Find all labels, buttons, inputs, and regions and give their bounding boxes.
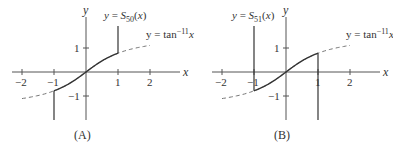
- x-tick-label: −2: [215, 76, 227, 88]
- y-axis-label: y: [282, 3, 289, 17]
- x-axis-label: x: [382, 65, 389, 79]
- panel-label: (A): [74, 128, 91, 142]
- arctan-label: y = tan−11x: [146, 27, 194, 40]
- x-tick-label: 1: [115, 76, 121, 88]
- y-axis-label: y: [82, 3, 89, 17]
- x-tick-label: −2: [15, 76, 27, 88]
- partial-sum-label: y = S51(x): [231, 9, 275, 24]
- panel-a: xy−2−1121−1y = S50(x)y = tan−11x(A): [12, 3, 194, 142]
- x-tick-label: 2: [347, 76, 353, 88]
- partial-sum-label: y = S50(x): [103, 9, 147, 24]
- x-tick-label: −1: [47, 76, 59, 88]
- x-tick-label: −1: [247, 76, 259, 88]
- arctan-label: y = tan−11x: [346, 27, 393, 40]
- y-tick-label: −1: [268, 90, 280, 102]
- y-tick-label: 1: [74, 42, 80, 54]
- y-tick-label: −1: [68, 90, 80, 102]
- panel-b: xy−2−1121−1y = S51(x)y = tan−11x(B): [212, 3, 393, 142]
- y-tick-label: 1: [274, 42, 280, 54]
- x-axis-label: x: [182, 65, 189, 79]
- figure: xy−2−1121−1y = S50(x)y = tan−11x(A) xy−2…: [0, 0, 393, 150]
- x-tick-label: 2: [147, 76, 153, 88]
- panel-label: (B): [274, 128, 290, 142]
